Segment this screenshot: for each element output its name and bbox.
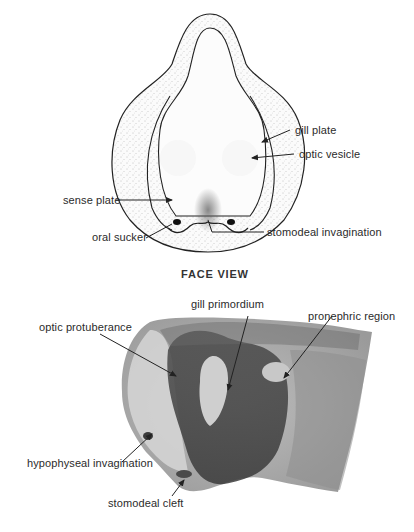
label-oral-sucker: oral sucker — [92, 231, 147, 243]
label-optic-protuberance: optic protuberance — [39, 321, 132, 333]
label-sense-plate: sense plate — [63, 194, 120, 206]
side-view-photo — [100, 316, 372, 496]
label-hypophyseal-invagination: hypophyseal invagination — [27, 457, 153, 469]
label-gill-plate: gill plate — [295, 124, 336, 136]
label-pronephric-region: pronephric region — [308, 310, 395, 322]
label-gill-primordium: gill primordium — [191, 298, 264, 310]
embryo-figure: gill plate optic vesicle sense plate ora… — [0, 0, 414, 532]
label-stomodeal-cleft: stomodeal cleft — [108, 497, 183, 509]
label-optic-vesicle: optic vesicle — [299, 148, 360, 160]
label-stomodeal-invagination: stomodeal invagination — [267, 226, 382, 238]
face-view-drawing — [112, 14, 305, 252]
caption-face-view: FACE VIEW — [181, 268, 249, 280]
figure-artwork — [0, 0, 414, 532]
